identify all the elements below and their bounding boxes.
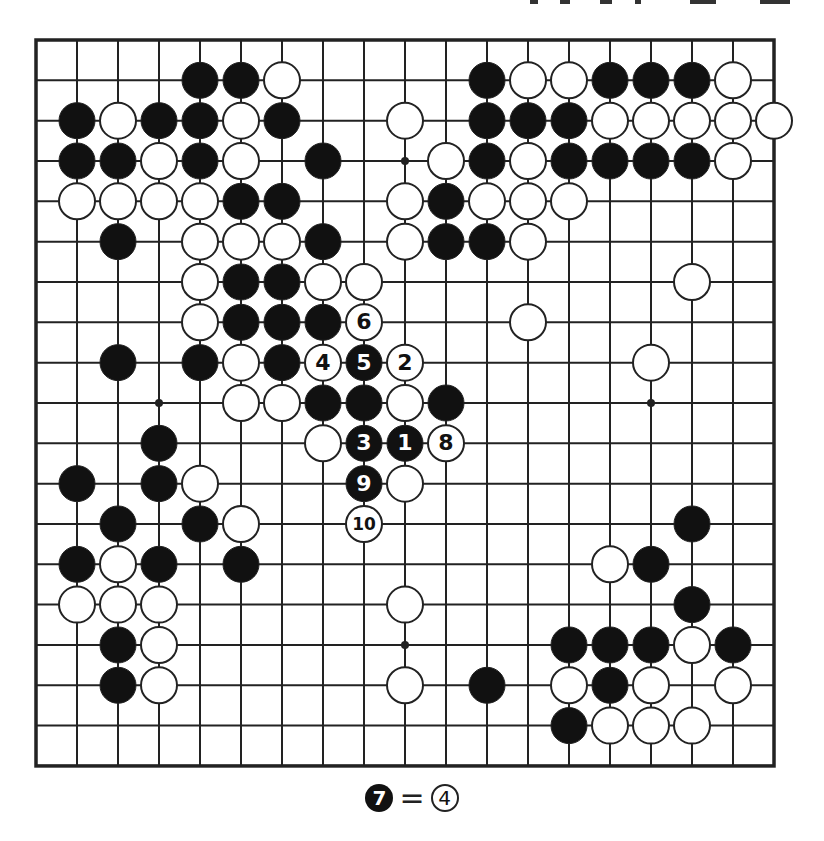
white-stone[interactable] (100, 546, 136, 582)
black-stone[interactable] (592, 667, 628, 703)
white-stone[interactable] (182, 466, 218, 502)
white-stone[interactable] (551, 183, 587, 219)
black-stone[interactable] (346, 385, 382, 421)
black-stone[interactable] (592, 627, 628, 663)
white-stone[interactable] (223, 103, 259, 139)
white-stone[interactable] (387, 183, 423, 219)
black-stone[interactable] (100, 667, 136, 703)
black-stone[interactable] (182, 143, 218, 179)
black-stone[interactable] (264, 103, 300, 139)
white-stone-move-6[interactable]: 6 (346, 304, 382, 340)
white-stone[interactable] (387, 103, 423, 139)
black-stone-move-9[interactable]: 9 (346, 466, 382, 502)
white-stone[interactable] (264, 385, 300, 421)
white-stone[interactable] (100, 587, 136, 623)
white-stone[interactable] (674, 627, 710, 663)
black-stone-move-1[interactable]: 1 (387, 425, 423, 461)
white-stone[interactable] (223, 143, 259, 179)
black-stone[interactable] (182, 506, 218, 542)
white-stone[interactable] (59, 587, 95, 623)
white-stone[interactable] (633, 345, 669, 381)
white-stone[interactable] (715, 62, 751, 98)
white-stone[interactable] (510, 143, 546, 179)
white-stone[interactable] (182, 183, 218, 219)
white-stone[interactable] (305, 425, 341, 461)
black-stone[interactable] (223, 62, 259, 98)
black-stone[interactable] (305, 224, 341, 260)
black-stone-move-5[interactable]: 5 (346, 345, 382, 381)
white-stone[interactable] (387, 224, 423, 260)
black-stone[interactable] (674, 62, 710, 98)
white-stone[interactable] (387, 587, 423, 623)
white-stone[interactable] (715, 103, 751, 139)
white-stone[interactable] (182, 264, 218, 300)
black-stone[interactable] (469, 667, 505, 703)
black-stone[interactable] (510, 103, 546, 139)
black-stone[interactable] (305, 385, 341, 421)
black-stone[interactable] (469, 143, 505, 179)
white-stone[interactable] (592, 546, 628, 582)
black-stone[interactable] (674, 143, 710, 179)
white-stone[interactable] (264, 224, 300, 260)
white-stone[interactable] (551, 62, 587, 98)
black-stone[interactable] (141, 103, 177, 139)
white-stone[interactable] (223, 224, 259, 260)
white-stone[interactable] (141, 587, 177, 623)
white-stone[interactable] (182, 224, 218, 260)
black-stone[interactable] (223, 546, 259, 582)
white-stone[interactable] (100, 183, 136, 219)
black-stone[interactable] (428, 385, 464, 421)
black-stone[interactable] (182, 103, 218, 139)
black-stone[interactable] (469, 62, 505, 98)
black-stone[interactable] (59, 546, 95, 582)
black-stone[interactable] (674, 506, 710, 542)
white-stone[interactable] (387, 466, 423, 502)
black-stone[interactable] (264, 264, 300, 300)
black-stone[interactable] (469, 103, 505, 139)
white-stone[interactable] (510, 304, 546, 340)
black-stone[interactable] (100, 224, 136, 260)
black-stone[interactable] (100, 345, 136, 381)
black-stone[interactable] (264, 304, 300, 340)
black-stone[interactable] (59, 143, 95, 179)
black-stone[interactable] (264, 183, 300, 219)
white-stone[interactable] (633, 103, 669, 139)
black-stone[interactable] (469, 224, 505, 260)
white-stone-move-2[interactable]: 2 (387, 345, 423, 381)
white-stone[interactable] (510, 183, 546, 219)
black-stone[interactable] (592, 143, 628, 179)
black-stone[interactable] (141, 546, 177, 582)
black-stone[interactable] (223, 183, 259, 219)
white-stone[interactable] (387, 667, 423, 703)
black-stone[interactable] (551, 708, 587, 744)
white-stone[interactable] (510, 224, 546, 260)
white-stone[interactable] (633, 708, 669, 744)
white-stone[interactable] (223, 506, 259, 542)
white-stone-move-4[interactable]: 4 (305, 345, 341, 381)
black-stone[interactable] (305, 304, 341, 340)
black-stone[interactable] (141, 466, 177, 502)
black-stone[interactable] (182, 345, 218, 381)
white-stone[interactable] (551, 667, 587, 703)
white-stone[interactable] (387, 385, 423, 421)
white-stone[interactable] (305, 264, 341, 300)
white-stone-move-8[interactable]: 8 (428, 425, 464, 461)
black-stone[interactable] (59, 466, 95, 502)
white-stone[interactable] (715, 143, 751, 179)
black-stone-move-3[interactable]: 3 (346, 425, 382, 461)
black-stone[interactable] (223, 304, 259, 340)
white-stone[interactable] (100, 103, 136, 139)
black-stone[interactable] (633, 546, 669, 582)
black-stone[interactable] (59, 103, 95, 139)
black-stone[interactable] (551, 103, 587, 139)
black-stone[interactable] (715, 627, 751, 663)
white-stone[interactable] (59, 183, 95, 219)
white-stone[interactable] (592, 103, 628, 139)
black-stone[interactable] (100, 506, 136, 542)
black-stone[interactable] (182, 62, 218, 98)
white-stone[interactable] (674, 264, 710, 300)
white-stone[interactable] (756, 103, 792, 139)
white-stone[interactable] (141, 627, 177, 663)
white-stone[interactable] (633, 667, 669, 703)
black-stone[interactable] (633, 627, 669, 663)
